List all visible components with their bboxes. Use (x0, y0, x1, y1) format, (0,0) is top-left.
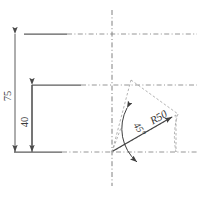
dimension-40-label: 40 (19, 117, 30, 128)
angle-label: 45° (131, 120, 148, 138)
dimension-40: 40 (19, 85, 32, 152)
sector-radial-upper (112, 80, 131, 152)
angle-arc (122, 108, 137, 162)
profile-lines (14, 34, 197, 152)
drawing-svg: 75 40 R50 45° (0, 0, 203, 197)
dimension-75: 75 (2, 34, 15, 152)
dimension-75-label: 75 (2, 91, 13, 102)
angle-dimension: 45° (112, 108, 148, 162)
angle-leg-dashed (112, 125, 122, 152)
radius-sector: R50 (112, 80, 178, 152)
radius-label: R50 (147, 107, 170, 127)
technical-drawing-canvas: 75 40 R50 45° (0, 0, 203, 197)
